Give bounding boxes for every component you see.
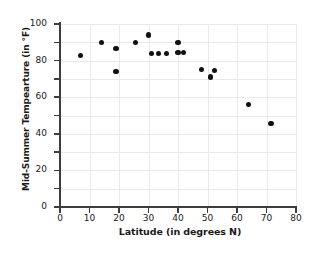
data-point xyxy=(175,40,180,45)
plot-area xyxy=(60,24,296,207)
y-axis-tick xyxy=(54,60,59,62)
y-axis-tick xyxy=(54,206,59,208)
x-axis-tick-label: 50 xyxy=(195,213,221,223)
data-point xyxy=(246,102,251,107)
data-point xyxy=(113,46,118,51)
y-axis-tick-label: 0 xyxy=(13,201,47,211)
y-axis-tick-label: 60 xyxy=(13,91,47,101)
x-axis-title: Latitude (in degrees N) xyxy=(60,226,300,237)
y-axis-tick xyxy=(54,115,59,117)
y-axis-tick xyxy=(54,188,59,190)
x-axis-tick-label: 0 xyxy=(47,213,73,223)
data-point xyxy=(133,40,138,45)
gridline-horizontal xyxy=(60,189,296,190)
y-axis-tick xyxy=(54,78,59,80)
gridline-horizontal xyxy=(60,134,296,135)
gridline-horizontal xyxy=(60,116,296,117)
data-point xyxy=(164,51,169,56)
gridline-horizontal xyxy=(60,152,296,153)
y-axis-tick xyxy=(54,96,59,98)
gridline-horizontal xyxy=(60,97,296,98)
y-axis-tick-label: 40 xyxy=(13,128,47,138)
x-axis-tick-label: 70 xyxy=(254,213,280,223)
y-axis-tick xyxy=(54,133,59,135)
y-axis-tick xyxy=(54,23,59,25)
data-point xyxy=(78,53,83,58)
data-point xyxy=(208,74,213,79)
x-axis-tick-label: 20 xyxy=(106,213,132,223)
y-axis-tick xyxy=(54,42,59,44)
x-axis-tick-label: 60 xyxy=(224,213,250,223)
x-axis-tick-label: 10 xyxy=(77,213,103,223)
data-point xyxy=(212,68,217,73)
data-point xyxy=(199,67,204,72)
data-point xyxy=(156,51,161,56)
y-axis-line xyxy=(59,22,61,209)
y-axis-title: Mid-Summer Tempearture (in °F) xyxy=(21,9,31,209)
y-axis-tick xyxy=(54,151,59,153)
data-point xyxy=(175,50,180,55)
data-point xyxy=(268,121,273,126)
x-axis-tick-label: 80 xyxy=(283,213,309,223)
data-point xyxy=(181,50,186,55)
y-axis-tick-label: 80 xyxy=(13,55,47,65)
scatter-plot-figure: Mid-Summer Tempearture (in °F) Latitude … xyxy=(0,0,323,253)
y-axis-tick-label: 20 xyxy=(13,164,47,174)
data-point xyxy=(146,32,151,37)
x-axis-tick-label: 40 xyxy=(165,213,191,223)
y-axis-tick-label: 100 xyxy=(13,18,47,28)
gridline-horizontal xyxy=(60,24,296,25)
gridline-horizontal xyxy=(60,61,296,62)
x-axis-tick-label: 30 xyxy=(136,213,162,223)
gridline-horizontal xyxy=(60,170,296,171)
y-axis-tick xyxy=(54,170,59,172)
data-point xyxy=(149,51,154,56)
data-point xyxy=(99,40,104,45)
gridline-vertical xyxy=(296,24,297,207)
data-point xyxy=(113,69,118,74)
gridline-horizontal xyxy=(60,79,296,80)
